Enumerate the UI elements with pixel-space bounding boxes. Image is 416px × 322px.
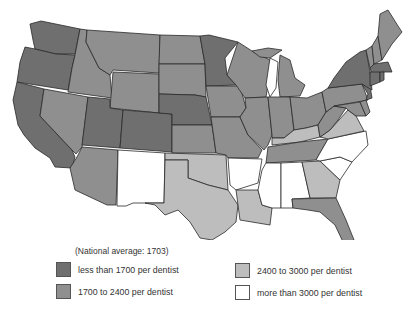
state-AR: [228, 158, 262, 190]
legend-swatch: [56, 262, 71, 277]
state-NY: [328, 50, 372, 90]
state-WY: [110, 72, 159, 113]
state-CO: [120, 110, 172, 152]
state-ME: [378, 10, 402, 60]
state-IN: [268, 97, 294, 138]
state-FL: [292, 198, 354, 240]
state-AZ: [70, 147, 118, 205]
legend-label: less than 1700 per dentist: [78, 265, 179, 275]
legend-swatch: [235, 285, 250, 300]
legend-note: (National average: 1703): [75, 246, 169, 256]
state-NM: [117, 150, 165, 206]
state-KS: [172, 125, 216, 153]
legend-item-2400-to-3000: 2400 to 3000 per dentist: [235, 263, 352, 278]
legend-label: 2400 to 3000 per dentist: [257, 266, 352, 276]
legend-label: 1700 to 2400 per dentist: [78, 287, 173, 297]
state-SD: [159, 64, 206, 97]
legend-item-1700-to-2400: 1700 to 2400 per dentist: [56, 284, 173, 299]
legend-item-more-than-3000: more than 3000 per dentist: [235, 285, 362, 300]
state-ND: [159, 35, 205, 64]
legend-label: more than 3000 per dentist: [257, 288, 362, 298]
state-CT: [370, 72, 380, 86]
legend-item-less-than-1700: less than 1700 per dentist: [56, 262, 179, 277]
legend-swatch: [235, 263, 250, 278]
state-WA: [30, 21, 80, 54]
state-MI: [278, 55, 305, 97]
state-MS: [258, 163, 281, 208]
us-choropleth-map: [0, 0, 416, 240]
legend-swatch: [56, 284, 71, 299]
state-RI: [380, 72, 384, 82]
